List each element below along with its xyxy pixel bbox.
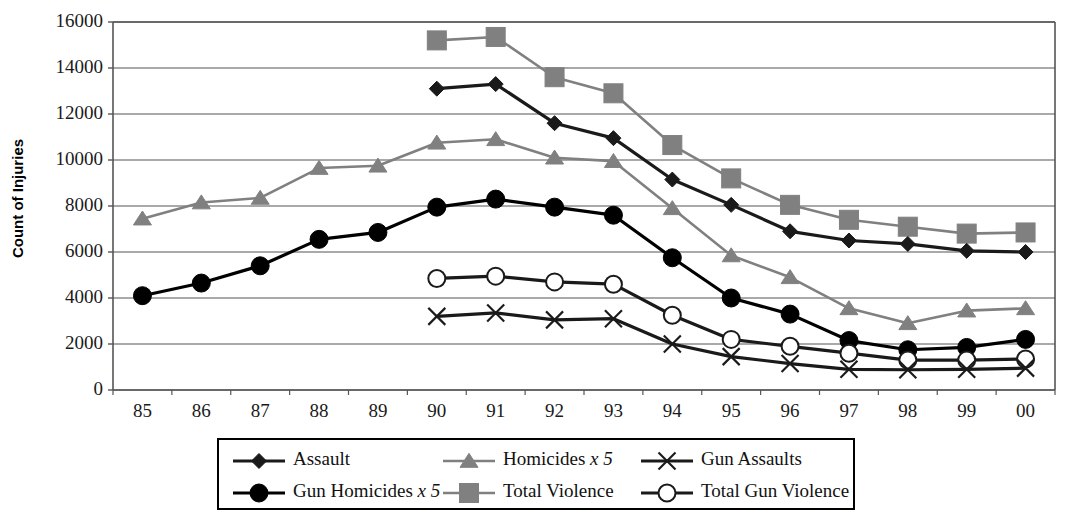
- series-total-violence-point-5-marker: [722, 169, 741, 188]
- series-homicides-x-5-point-11-marker: [781, 270, 799, 284]
- series-gun-homicides-x-5-point-10-marker: [722, 289, 740, 307]
- gridlines: [113, 22, 1055, 390]
- y-tick-label-6000: 6000: [8, 240, 103, 262]
- series-total-gun-violence-point-5-marker: [723, 331, 740, 348]
- series-total-violence-point-0-marker: [427, 31, 446, 50]
- series-gun-homicides-x-5-point-1-marker: [192, 274, 210, 292]
- x-tick-label-94: 94: [642, 400, 702, 422]
- series-total-violence-point-2-marker: [545, 68, 564, 87]
- legend-swatch-svg-total-violence: [441, 480, 497, 506]
- legend-entry-gun-assaults[interactable]: Gun Assaults: [639, 444, 802, 474]
- y-tick-label-16000: 16000: [8, 10, 103, 32]
- series-total-gun-violence-point-8-marker: [899, 352, 916, 369]
- legend-total-violence-marker: [460, 484, 479, 503]
- series-line-homicides-x-5: [142, 139, 1025, 323]
- legend-label-total-gun-violence: Total Gun Violence: [701, 480, 849, 502]
- y-tick-label-8000: 8000: [8, 194, 103, 216]
- series-assault-point-7-marker: [841, 233, 856, 248]
- series-gun-homicides-x-5-point-4-marker: [369, 223, 387, 241]
- chart-container: Count of Injuries 0200040006000800010000…: [0, 0, 1068, 524]
- y-tick-label-0: 0: [8, 378, 103, 400]
- legend-label-assault: Assault: [293, 448, 350, 470]
- legend-entry-homicides-x-5[interactable]: Homicides x 5: [441, 444, 613, 474]
- legend-marker-assault-icon: [231, 448, 287, 470]
- series-homicides-x-5-point-12-marker: [840, 301, 858, 315]
- y-tick-label-14000: 14000: [8, 56, 103, 78]
- axis-frame: [108, 22, 1055, 395]
- x-tick-label-00: 00: [996, 400, 1056, 422]
- legend-entry-assault[interactable]: Assault: [231, 444, 350, 474]
- x-tick-label-85: 85: [112, 400, 172, 422]
- series-total-gun-violence-point-7-marker: [840, 345, 857, 362]
- series-line-gun-homicides-x-5: [142, 199, 1025, 350]
- series-total-violence-point-4-marker: [663, 136, 682, 155]
- series-total-gun-violence: [428, 268, 1034, 369]
- x-tick-label-87: 87: [230, 400, 290, 422]
- series-gun-homicides-x-5: [133, 190, 1034, 359]
- legend-swatch-svg-assault: [231, 448, 287, 474]
- legend-label-gun-homicides-x-5: Gun Homicides x 5: [293, 480, 440, 502]
- x-tick-label-91: 91: [466, 400, 526, 422]
- series-total-violence-point-8-marker: [898, 217, 917, 236]
- x-tick-label-93: 93: [583, 400, 643, 422]
- x-tick-label-98: 98: [878, 400, 938, 422]
- legend-swatch-svg-total-gun-violence: [639, 480, 695, 506]
- series-total-violence-point-10-marker: [1016, 223, 1035, 242]
- legend-entry-total-gun-violence[interactable]: Total Gun Violence: [639, 476, 849, 506]
- series-total-gun-violence-point-6-marker: [782, 338, 799, 355]
- series-total-gun-violence-point-10-marker: [1017, 350, 1034, 367]
- series-total-gun-violence-point-0-marker: [428, 270, 445, 287]
- series-gun-homicides-x-5-point-2-marker: [251, 257, 269, 275]
- legend-entry-total-violence[interactable]: Total Violence: [441, 476, 614, 506]
- y-tick-label-2000: 2000: [8, 332, 103, 354]
- series-gun-homicides-x-5-point-3-marker: [310, 230, 328, 248]
- series-gun-homicides-x-5-point-8-marker: [604, 206, 622, 224]
- series-assault-point-0-marker: [429, 81, 444, 96]
- series-assault-point-9-marker: [959, 243, 974, 258]
- series-gun-homicides-x-5-point-11-marker: [781, 305, 799, 323]
- series-gun-homicides-x-5-point-0-marker: [133, 287, 151, 305]
- series-assault-point-10-marker: [1018, 245, 1033, 260]
- x-tick-label-89: 89: [348, 400, 408, 422]
- series-total-gun-violence-point-9-marker: [958, 352, 975, 369]
- series-gun-homicides-x-5-point-15-marker: [1017, 330, 1035, 348]
- x-tick-label-95: 95: [701, 400, 761, 422]
- legend-swatch-svg-homicides-x-5: [441, 448, 497, 474]
- legend-marker-total-gun-violence-icon: [639, 480, 695, 502]
- series-total-violence-point-3-marker: [604, 84, 623, 103]
- x-tick-label-88: 88: [289, 400, 349, 422]
- series-total-violence-point-6-marker: [781, 195, 800, 214]
- x-tick-label-96: 96: [760, 400, 820, 422]
- series-total-gun-violence-point-3-marker: [605, 276, 622, 293]
- legend-swatch-svg-gun-assaults: [639, 448, 695, 474]
- series-total-violence-point-1-marker: [486, 27, 505, 46]
- x-tick-label-97: 97: [819, 400, 879, 422]
- y-tick-label-12000: 12000: [8, 102, 103, 124]
- legend-gun-homicides-x-5-marker: [250, 484, 268, 502]
- legend-total-gun-violence-marker: [659, 485, 676, 502]
- series-gun-homicides-x-5-point-7-marker: [546, 198, 564, 216]
- series-total-violence-point-9-marker: [957, 224, 976, 243]
- legend-assault-marker: [252, 454, 267, 469]
- series-total-gun-violence-point-1-marker: [487, 268, 504, 285]
- x-tick-label-99: 99: [937, 400, 997, 422]
- legend-marker-gun-assaults-icon: [639, 448, 695, 470]
- series-assault-point-8-marker: [900, 236, 915, 251]
- series-assault-point-5-marker: [724, 197, 739, 212]
- series-gun-homicides-x-5-point-5-marker: [428, 198, 446, 216]
- series-total-gun-violence-point-4-marker: [664, 307, 681, 324]
- legend-label-gun-assaults: Gun Assaults: [701, 448, 802, 470]
- y-tick-label-4000: 4000: [8, 286, 103, 308]
- series-gun-homicides-x-5-point-9-marker: [663, 249, 681, 267]
- x-tick-label-90: 90: [407, 400, 467, 422]
- legend-entry-gun-homicides-x-5[interactable]: Gun Homicides x 5: [231, 476, 440, 506]
- legend-marker-total-violence-icon: [441, 480, 497, 502]
- legend-label-total-violence: Total Violence: [503, 480, 614, 502]
- y-tick-label-10000: 10000: [8, 148, 103, 170]
- legend-label-homicides-x-5: Homicides x 5: [503, 448, 613, 470]
- chart-legend: AssaultHomicides x 5Gun AssaultsGun Homi…: [217, 438, 855, 510]
- legend-marker-gun-homicides-x-5-icon: [231, 480, 287, 502]
- series-gun-homicides-x-5-point-6-marker: [487, 190, 505, 208]
- series-total-gun-violence-point-2-marker: [546, 273, 563, 290]
- series-assault-point-6-marker: [783, 224, 798, 239]
